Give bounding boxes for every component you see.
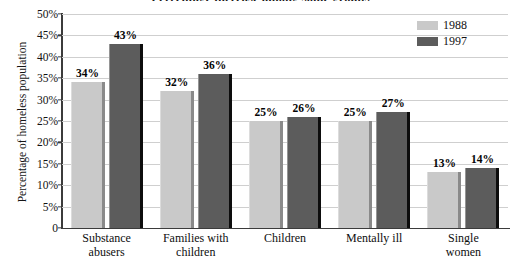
y-tick-label: 15%: [37, 158, 58, 170]
y-tick-mark: [58, 120, 62, 121]
bar-value-label: 36%: [203, 59, 226, 71]
bar-1997[interactable]: 36%: [198, 74, 232, 228]
x-category-label: Families withchildren: [151, 232, 240, 259]
bar-edge-shadow: [102, 82, 105, 228]
bar-body: [71, 82, 103, 228]
bar-edge-shadow: [496, 168, 499, 228]
bar-value-label: 13%: [433, 157, 456, 169]
bar-value-label: 25%: [255, 106, 278, 118]
y-tick-mark: [58, 142, 62, 143]
x-category-label: Children: [240, 232, 329, 246]
bar-edge-shadow: [280, 121, 283, 228]
y-tick-mark: [58, 13, 62, 14]
bar-1997[interactable]: 43%: [109, 44, 143, 228]
bar-1988[interactable]: 25%: [338, 121, 372, 228]
bar-group: 34%43%: [71, 14, 143, 228]
bar-1988[interactable]: 32%: [160, 91, 194, 228]
bar-group: 25%27%: [338, 14, 410, 228]
bar-edge-shadow: [458, 172, 461, 228]
bar-edge-shadow: [191, 91, 194, 228]
x-category-label: Substanceabusers: [62, 232, 151, 259]
bar-1997[interactable]: 27%: [376, 112, 410, 228]
bar-chart: Percentage increase among some groups Pe…: [0, 0, 521, 265]
bar-1988[interactable]: 34%: [71, 82, 105, 228]
bar-body: [376, 112, 408, 228]
bar-body: [198, 74, 230, 228]
bar-1997[interactable]: 14%: [465, 168, 499, 228]
bar-value-label: 32%: [165, 76, 188, 88]
bar-value-label: 25%: [344, 106, 367, 118]
y-tick-mark: [58, 56, 62, 57]
y-tick-label: 5%: [43, 201, 58, 213]
y-tick-label: 20%: [37, 136, 58, 148]
bar-body: [338, 121, 370, 228]
y-tick-mark: [58, 163, 62, 164]
bar-1988[interactable]: 25%: [249, 121, 283, 228]
legend-swatch-1997: [417, 37, 438, 46]
bar-value-label: 14%: [471, 153, 494, 165]
bar-body: [287, 117, 319, 228]
bar-1988[interactable]: 13%: [427, 172, 461, 228]
bar-edge-shadow: [369, 121, 372, 228]
bar-body: [465, 168, 497, 228]
x-category-label: Mentally ill: [330, 232, 419, 246]
y-tick-label: 25%: [37, 115, 58, 127]
chart-title: Percentage increase among some groups: [0, 0, 521, 1]
y-tick-label: 50%: [37, 8, 58, 20]
bar-value-label: 27%: [382, 97, 405, 109]
x-category-label: Singlewomen: [419, 232, 508, 259]
y-tick-mark: [58, 35, 62, 36]
y-tick-mark: [58, 227, 62, 228]
bar-value-label: 26%: [293, 102, 316, 114]
y-tick-label: 35%: [37, 72, 58, 84]
legend-item-1988[interactable]: 1988: [417, 19, 503, 32]
legend-swatch-1988: [417, 21, 438, 30]
legend-label-1988: 1988: [443, 18, 467, 33]
y-tick-label: 0: [52, 222, 58, 234]
bar-group: 25%26%: [249, 14, 321, 228]
bar-body: [160, 91, 192, 228]
y-tick-mark: [58, 78, 62, 79]
legend: 1988 1997: [417, 19, 503, 51]
y-tick-label: 30%: [37, 94, 58, 106]
y-axis-title: Percentage of homeless population: [16, 17, 28, 227]
legend-item-1997[interactable]: 1997: [417, 35, 503, 48]
bar-edge-shadow: [229, 74, 232, 228]
y-tick-label: 40%: [37, 51, 58, 63]
bar-value-label: 43%: [114, 29, 137, 41]
bar-edge-shadow: [318, 117, 321, 228]
y-tick-mark: [58, 185, 62, 186]
bar-value-label: 34%: [76, 67, 99, 79]
bar-body: [109, 44, 141, 228]
bar-edge-shadow: [407, 112, 410, 228]
y-tick-mark: [58, 206, 62, 207]
gridline: [62, 228, 508, 229]
y-tick-mark: [58, 99, 62, 100]
y-tick-label: 45%: [37, 29, 58, 41]
bar-1997[interactable]: 26%: [287, 117, 321, 228]
bar-edge-shadow: [140, 44, 143, 228]
bar-group: 32%36%: [160, 14, 232, 228]
legend-label-1997: 1997: [443, 34, 467, 49]
y-tick-label: 10%: [37, 179, 58, 191]
bar-body: [249, 121, 281, 228]
bar-body: [427, 172, 459, 228]
